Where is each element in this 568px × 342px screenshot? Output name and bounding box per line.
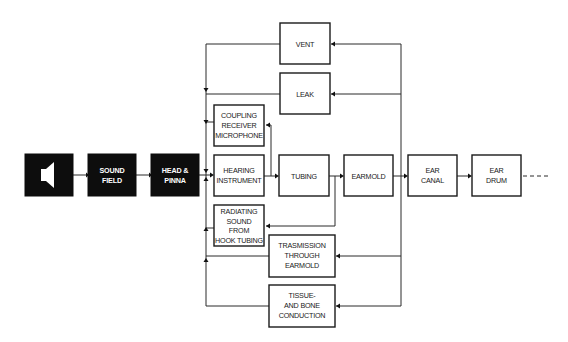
arrow-up-icon (204, 177, 209, 181)
ear-canal-label-2: CANAL (421, 176, 444, 185)
arrow-left-icon (266, 123, 270, 128)
radiating-label-4: HOOK TUBING (215, 236, 264, 245)
head-pinna-block: HEAD & PINNA (151, 154, 199, 196)
tissue-label-3: CONDUCTION (279, 311, 326, 320)
sound-field-label-1: SOUND (100, 166, 125, 175)
earmold-block: EARMOLD (344, 155, 393, 196)
sound-field-block: SOUND FIELD (88, 154, 136, 196)
arrow-up-icon (204, 258, 209, 262)
ear-canal-block: EAR CANAL (408, 155, 457, 196)
tissue-block: TISSUE- AND BONE CONDUCTION (269, 285, 335, 327)
leak-block: LEAK (280, 73, 330, 114)
arrow-left-icon (336, 304, 340, 309)
arrow-down-icon (204, 88, 209, 92)
ear-drum-label-2: DRUM (486, 176, 507, 185)
transmission-label-2: THROUGH (285, 251, 320, 260)
tissue-label-2: AND BONE (284, 301, 320, 310)
ear-canal-label-1: EAR (425, 166, 439, 175)
hearing-aid-feedback-diagram: SOUND FIELD HEAD & PINNA HEARING INSTRUM… (0, 0, 568, 342)
tubing-label: TUBING (291, 172, 318, 181)
radiating-label-3: FROM (229, 226, 250, 235)
radiating-label-2: SOUND (227, 217, 252, 226)
hearing-instrument-block: HEARING INSTRUMENT (214, 155, 264, 196)
coupling-label-1: COUPLING (221, 111, 258, 120)
ear-drum-label-1: EAR (489, 166, 503, 175)
arrow-left-icon (336, 254, 340, 259)
coupling-label-3: MICROPHONE (215, 131, 263, 140)
arrow-left-icon (266, 224, 270, 229)
hearing-instrument-label-2: INSTRUMENT (216, 176, 262, 185)
transmission-block: TRASMISSION THROUGH EARMOLD (269, 235, 335, 277)
sound-field-box (88, 154, 136, 196)
radiating-block: RADIATING SOUND FROM HOOK TUBING (214, 205, 264, 246)
head-pinna-label-1: HEAD & (162, 166, 188, 175)
earmold-label: EARMOLD (351, 172, 385, 181)
head-pinna-box (151, 154, 199, 196)
transmission-label-1: TRASMISSION (278, 241, 325, 250)
head-pinna-label-2: PINNA (164, 176, 185, 185)
coupling-label-2: RECEIVER (221, 121, 256, 130)
arrow-down-icon (204, 169, 209, 173)
sound-field-label-2: FIELD (102, 176, 122, 185)
vent-block: VENT (280, 23, 330, 64)
arrow-left-icon (331, 92, 335, 97)
arrow-left-icon (331, 42, 335, 47)
tubing-block: TUBING (279, 155, 329, 196)
coupling-block: COUPLING RECEIVER MICROPHONE (214, 105, 264, 146)
transmission-label-3: EARMOLD (285, 261, 319, 270)
tissue-label-1: TISSUE- (289, 291, 317, 300)
ear-drum-block: EAR DRUM (472, 155, 521, 196)
leak-label: LEAK (296, 90, 314, 99)
radiating-label-1: RADIATING (221, 207, 258, 216)
speaker-block (25, 154, 73, 196)
vent-label: VENT (296, 40, 315, 49)
hearing-instrument-label-1: HEARING (223, 166, 255, 175)
